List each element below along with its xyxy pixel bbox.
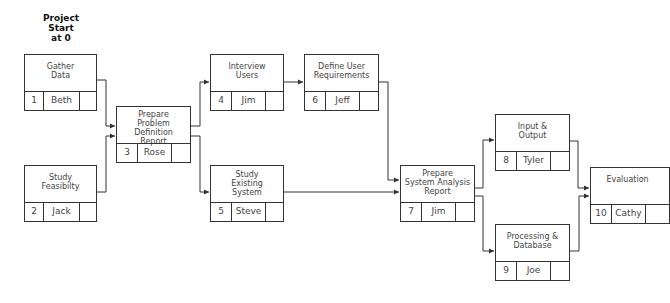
task-node-8[interactable]: Input & Output 8Tyler: [495, 114, 570, 171]
task-owner: Jeff: [326, 92, 360, 110]
task-extra-cell: [646, 205, 669, 223]
task-id: 4: [211, 92, 232, 110]
task-extra-cell: [172, 144, 190, 162]
task-name: Prepare Problem Definition Report: [117, 107, 190, 146]
task-id: 2: [25, 203, 44, 221]
task-node-5[interactable]: Study Existing System 5Steve: [210, 165, 284, 222]
task-name: Interview Users: [211, 55, 283, 80]
task-id: 1: [25, 92, 44, 110]
task-owner: Rose: [138, 144, 172, 162]
task-owner: Jack: [44, 203, 80, 221]
task-node-3[interactable]: Prepare Problem Definition Report 3Rose: [116, 106, 191, 163]
task-id: 7: [401, 203, 422, 221]
task-owner: Cathy: [612, 205, 646, 223]
task-name: Evaluation: [591, 168, 669, 184]
task-extra-cell: [266, 92, 283, 110]
task-extra-cell: [80, 203, 96, 221]
task-node-7[interactable]: Prepare System Analysis Report 7Jim: [400, 165, 475, 222]
task-owner: Beth: [44, 92, 80, 110]
task-name: Gather Data: [25, 55, 96, 80]
task-id: 5: [211, 203, 232, 221]
task-extra-cell: [456, 203, 474, 221]
task-name: Study Feasibilty: [25, 166, 96, 191]
task-name: Prepare System Analysis Report: [401, 166, 474, 196]
task-owner: Joe: [517, 262, 551, 280]
task-name: Study Existing System: [211, 166, 283, 197]
task-owner: Steve: [232, 203, 266, 221]
task-node-1[interactable]: Gather Data 1Beth: [24, 54, 97, 111]
task-extra-cell: [360, 92, 378, 110]
task-id: 9: [496, 262, 517, 280]
task-extra-cell: [551, 152, 569, 170]
task-owner: Jim: [232, 92, 266, 110]
task-name: Processing & Database: [496, 225, 569, 250]
task-id: 3: [117, 144, 138, 162]
project-start-label: Project Start at 0: [40, 13, 82, 43]
task-extra-cell: [266, 203, 283, 221]
task-owner: Jim: [422, 203, 456, 221]
task-node-2[interactable]: Study Feasibilty 2Jack: [24, 165, 97, 222]
task-node-6[interactable]: Define User Requirements 6Jeff: [304, 54, 379, 111]
task-extra-cell: [80, 92, 96, 110]
task-id: 8: [496, 152, 517, 170]
task-name: Define User Requirements: [305, 55, 378, 80]
task-extra-cell: [551, 262, 569, 280]
task-node-10[interactable]: Evaluation 10Cathy: [590, 167, 670, 224]
task-node-9[interactable]: Processing & Database 9Joe: [495, 224, 570, 281]
task-name: Input & Output: [496, 115, 569, 140]
task-owner: Tyler: [517, 152, 551, 170]
task-id: 6: [305, 92, 326, 110]
task-id: 10: [591, 205, 612, 223]
task-node-4[interactable]: Interview Users 4Jim: [210, 54, 284, 111]
